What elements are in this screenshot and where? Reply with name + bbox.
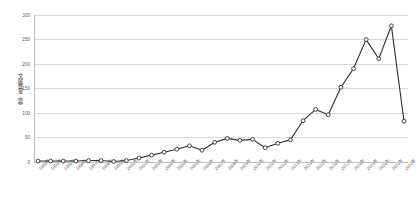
data-point-marker <box>326 113 330 117</box>
data-point-marker <box>124 159 128 163</box>
data-point-marker <box>213 140 217 144</box>
data-point-marker <box>301 119 305 123</box>
data-point-marker <box>263 146 267 150</box>
data-point-marker <box>225 137 229 141</box>
data-point-marker <box>74 159 78 163</box>
data-point-marker <box>61 159 65 163</box>
data-point-marker <box>251 137 255 141</box>
data-point-marker <box>377 57 381 61</box>
data-point-marker <box>188 144 192 148</box>
data-point-marker <box>276 141 280 145</box>
data-point-marker <box>150 153 154 157</box>
data-point-marker <box>289 138 293 142</box>
data-point-marker <box>389 24 393 28</box>
data-point-marker <box>36 159 40 163</box>
data-point-marker <box>99 159 103 163</box>
data-point-marker <box>200 148 204 152</box>
data-point-marker <box>364 38 368 42</box>
data-point-marker <box>238 138 242 142</box>
data-point-marker <box>175 147 179 151</box>
data-point-marker <box>402 119 406 123</box>
data-point-marker <box>314 107 318 111</box>
data-point-marker <box>137 156 141 160</box>
data-point-marker <box>339 85 343 89</box>
series-polyline <box>38 26 404 162</box>
data-point-marker <box>112 160 116 164</box>
data-point-marker <box>162 150 166 154</box>
data-point-marker <box>87 159 91 163</box>
data-point-marker <box>352 67 356 71</box>
data-point-marker <box>49 159 53 163</box>
